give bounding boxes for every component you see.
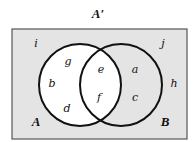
set-label-b: B [160, 114, 170, 129]
region-label-e: e [98, 63, 105, 76]
region-label-a: a [132, 63, 139, 76]
region-label-c: c [132, 91, 138, 104]
venn-diagram: A′ i j h g b d e f a c A B [0, 0, 196, 142]
diagram-title: A′ [91, 6, 105, 21]
region-label-i: i [34, 37, 38, 50]
region-label-b: b [48, 77, 55, 90]
region-label-h: h [170, 77, 177, 90]
region-label-d: d [63, 102, 70, 115]
region-label-g: g [64, 55, 71, 68]
set-label-a: A [31, 114, 41, 129]
